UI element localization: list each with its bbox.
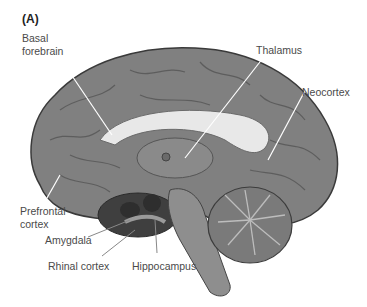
label-prefrontal-cortex: Prefrontal cortex xyxy=(20,205,66,231)
label-amygdala: Amygdala xyxy=(45,234,92,247)
temporal-lobe-medial xyxy=(98,193,178,237)
label-neocortex: Neocortex xyxy=(302,86,350,99)
label-rhinal-cortex: Rhinal cortex xyxy=(48,260,109,273)
label-basal-forebrain: Basal forebrain xyxy=(22,32,63,58)
thalamus-region xyxy=(137,138,213,178)
label-thalamus: Thalamus xyxy=(256,44,302,57)
cerebellum xyxy=(208,187,292,263)
label-hippocampus: Hippocampus xyxy=(132,260,196,273)
